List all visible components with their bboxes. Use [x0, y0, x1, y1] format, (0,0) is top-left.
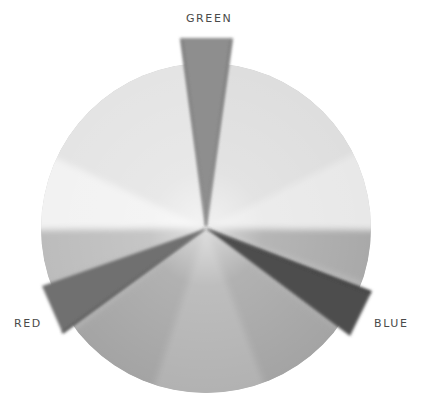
color-wheel-diagram: GREEN RED BLUE	[0, 0, 423, 412]
color-wheel-graphic	[0, 0, 423, 412]
label-blue: BLUE	[374, 317, 409, 330]
label-green: GREEN	[186, 12, 232, 25]
label-red: RED	[14, 317, 42, 330]
